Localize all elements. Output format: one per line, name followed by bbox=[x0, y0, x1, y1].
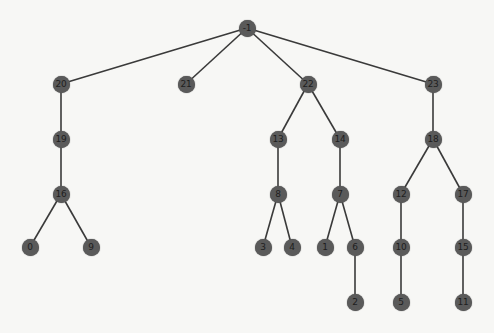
tree-node: 2 bbox=[347, 294, 364, 311]
tree-node: 5 bbox=[393, 294, 410, 311]
tree-node: 10 bbox=[393, 239, 410, 256]
tree-node: 14 bbox=[332, 131, 349, 148]
tree-node: 7 bbox=[332, 186, 349, 203]
tree-node: 17 bbox=[455, 186, 472, 203]
tree-node: 8 bbox=[270, 186, 287, 203]
tree-node: 4 bbox=[284, 239, 301, 256]
tree-edge bbox=[247, 28, 433, 84]
tree-node: 3 bbox=[255, 239, 272, 256]
tree-node: 1 bbox=[317, 239, 334, 256]
tree-node: 0 bbox=[22, 239, 39, 256]
tree-node: 23 bbox=[425, 76, 442, 93]
tree-node: 20 bbox=[53, 76, 70, 93]
tree-node: 15 bbox=[455, 239, 472, 256]
tree-edge bbox=[433, 139, 463, 194]
tree-edge bbox=[61, 28, 247, 84]
tree-node: 12 bbox=[393, 186, 410, 203]
tree-node: -1 bbox=[239, 20, 256, 37]
tree-node: 9 bbox=[83, 239, 100, 256]
tree-edge bbox=[308, 84, 340, 139]
tree-diagram: -120212223191314181687121709341610152511 bbox=[0, 0, 494, 333]
tree-node: 13 bbox=[270, 131, 287, 148]
tree-node: 11 bbox=[455, 294, 472, 311]
tree-edge bbox=[401, 139, 433, 194]
tree-edges bbox=[0, 0, 494, 333]
tree-edge bbox=[30, 194, 61, 247]
tree-node: 21 bbox=[178, 76, 195, 93]
tree-node: 19 bbox=[53, 131, 70, 148]
tree-node: 18 bbox=[425, 131, 442, 148]
tree-node: 6 bbox=[347, 239, 364, 256]
tree-node: 22 bbox=[300, 76, 317, 93]
tree-node: 16 bbox=[53, 186, 70, 203]
tree-edge bbox=[278, 84, 308, 139]
